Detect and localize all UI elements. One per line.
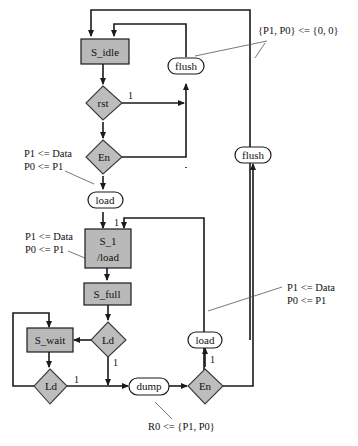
decision-label: En: [98, 151, 111, 163]
decision-ld-right[interactable]: Ld: [91, 322, 126, 357]
decision-label: En: [199, 380, 212, 392]
output-label: load: [96, 194, 115, 206]
state-s-wait[interactable]: S_wait: [27, 328, 73, 352]
annotation-flush: {P1, P0} <= {0, 0}: [258, 25, 338, 36]
decision-ld-left[interactable]: Ld: [34, 369, 67, 404]
asm-chart: S_idle S_1 /load S_full S_wait rst En Ld…: [0, 0, 358, 446]
edge-load-bottom-to-s1: [124, 218, 204, 378]
annotation-load-top-1: P1 <= Data: [24, 148, 72, 159]
decision-en-top[interactable]: En: [86, 140, 122, 174]
edge-label-ld-right-true: 1: [113, 357, 118, 368]
edge-label-s1-entry: 1: [114, 217, 119, 228]
edge-label-en-bottom-true: 1: [210, 354, 215, 365]
annotation-load-bottom-1: P1 <= Data: [287, 282, 335, 293]
decision-label: rst: [98, 97, 109, 109]
state-s-idle[interactable]: S_idle: [81, 39, 129, 64]
annotation-dump: R0 <= {P1, P0}: [148, 421, 215, 432]
annotation-s1-1: P1 <= Data: [25, 231, 73, 242]
decision-label: Ld: [102, 334, 115, 346]
state-label-sub: /load: [97, 251, 119, 263]
output-flush-right[interactable]: flush: [235, 147, 271, 163]
annotation-load-bottom-2: P0 <= P1: [287, 295, 326, 306]
state-label: S_wait: [35, 334, 66, 346]
annotation-load-top-2: P0 <= P1: [24, 161, 63, 172]
output-label: dump: [136, 380, 162, 392]
state-label: S_idle: [91, 46, 119, 58]
state-s-1[interactable]: S_1 /load: [85, 229, 131, 268]
output-load-bottom[interactable]: load: [188, 332, 222, 348]
edge-en-to-flush-right: [223, 164, 253, 386]
state-label: S_full: [94, 288, 121, 300]
decision-label: Ld: [45, 380, 58, 392]
output-dump[interactable]: dump: [129, 378, 169, 395]
annotation-s1-2: P0 <= P1: [25, 244, 64, 255]
state-label: S_1: [99, 235, 116, 247]
decision-en-bottom[interactable]: En: [188, 369, 223, 404]
decision-rst[interactable]: rst: [86, 86, 122, 120]
output-label: flush: [242, 149, 265, 161]
output-load-top[interactable]: load: [88, 192, 123, 208]
output-flush-top[interactable]: flush: [168, 58, 204, 74]
edge-label-rst-true: 1: [128, 90, 133, 101]
output-label: flush: [175, 60, 198, 72]
output-label: load: [196, 334, 215, 346]
state-s-full[interactable]: S_full: [84, 283, 131, 305]
edge-label-ld-left-true: 1: [74, 374, 79, 385]
